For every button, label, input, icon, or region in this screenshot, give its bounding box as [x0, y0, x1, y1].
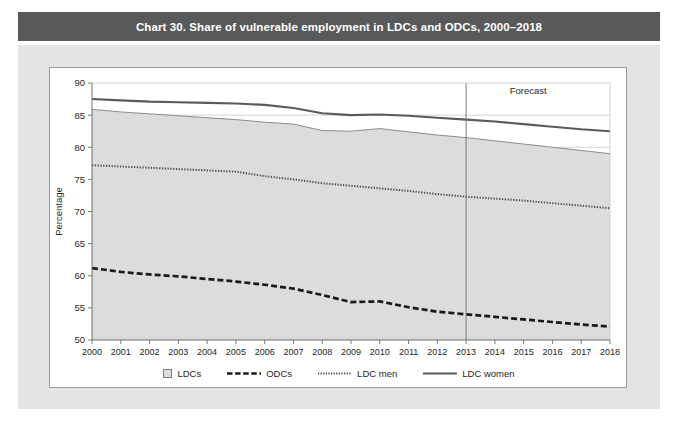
x-axis-tick-label: 2016 [542, 347, 562, 357]
chart-title-bar: Chart 30. Share of vulnerable employment… [18, 12, 660, 41]
legend-label-ldc-men: LDC men [357, 368, 397, 379]
chart-legend: LDCs ODCs LDC men [50, 368, 628, 379]
x-axis-tick-label: 2005 [226, 347, 246, 357]
y-axis-tick-label: 60 [74, 270, 85, 281]
y-axis-tick-label: 75 [74, 174, 85, 185]
chart-figure: Chart 30. Share of vulnerable employment… [0, 0, 678, 421]
x-axis-tick-label: 2007 [283, 347, 303, 357]
plot-card: 505560657075808590Percentage200020012002… [49, 67, 627, 388]
x-axis-tick-label: 2002 [140, 347, 160, 357]
x-axis-tick-label: 2001 [111, 347, 131, 357]
y-axis-tick-label: 65 [74, 238, 85, 249]
x-axis-tick-label: 2003 [168, 347, 188, 357]
forecast-label: Forecast [510, 85, 547, 96]
legend-item-ldcs: LDCs [163, 368, 201, 379]
legend-label-ldcs: LDCs [177, 368, 201, 379]
x-axis-tick-label: 2009 [341, 347, 361, 357]
x-axis-tick-label: 2017 [571, 347, 591, 357]
legend-item-odcs: ODCs [227, 368, 292, 379]
legend-item-ldc-women: LDC women [423, 368, 514, 379]
legend-swatch-solid-icon [423, 369, 457, 378]
x-axis-tick-label: 2008 [312, 347, 332, 357]
y-axis-tick-label: 55 [74, 302, 85, 313]
y-axis-tick-label: 70 [74, 206, 85, 217]
legend-label-odcs: ODCs [266, 368, 292, 379]
x-axis-tick-label: 2013 [456, 347, 476, 357]
x-axis-tick-label: 2012 [427, 347, 447, 357]
y-axis-title: Percentage [53, 187, 64, 236]
legend-item-ldc-men: LDC men [318, 368, 397, 379]
x-axis-tick-label: 2018 [600, 347, 620, 357]
legend-swatch-dotted-icon [318, 369, 352, 378]
x-axis-tick-label: 2015 [514, 347, 534, 357]
x-axis-tick-label: 2011 [399, 347, 418, 357]
legend-swatch-dashed-icon [227, 369, 261, 378]
y-axis-tick-label: 50 [74, 334, 85, 345]
x-axis-tick-label: 2014 [485, 347, 505, 357]
y-axis-tick-label: 90 [74, 77, 85, 88]
x-axis-tick-label: 2006 [255, 347, 275, 357]
chart-plot-area: 505560657075808590Percentage200020012002… [50, 68, 626, 387]
x-axis-tick-label: 2000 [82, 347, 102, 357]
legend-label-ldc-women: LDC women [462, 368, 514, 379]
page-title: Chart 30. Share of vulnerable employment… [136, 21, 542, 33]
y-axis-tick-label: 85 [74, 110, 85, 121]
x-axis-tick-label: 2004 [197, 347, 217, 357]
legend-swatch-area-icon [163, 369, 172, 378]
chart-outer-panel: 505560657075808590Percentage200020012002… [18, 45, 660, 409]
y-axis-tick-label: 80 [74, 142, 85, 153]
x-axis-tick-label: 2010 [370, 347, 390, 357]
